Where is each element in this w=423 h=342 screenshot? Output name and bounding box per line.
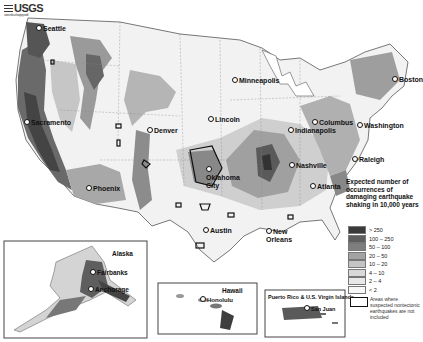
city-indianapolis: Indianapolis — [288, 127, 336, 135]
legend-label: 10 – 20 — [369, 261, 387, 267]
legend-swatch — [348, 286, 366, 294]
city-marker-icon — [288, 127, 294, 133]
city-label: Minneapolis — [239, 77, 279, 84]
city-new-orleans: New Orleans — [266, 228, 298, 244]
city-phoenix: Phoenix — [86, 185, 120, 193]
city-columbus: Columbus — [312, 119, 353, 127]
legend-row: 10 – 20 — [348, 260, 393, 269]
city-label: Indianapolis — [295, 127, 336, 134]
legend-row: > 250 — [348, 226, 393, 235]
city-marker-icon — [36, 25, 42, 31]
usgs-logo: USGS science for a changing world — [4, 2, 43, 17]
city-label: Nashville — [296, 162, 327, 169]
city-label: Lincoln — [215, 116, 240, 123]
city-raleigh: Raleigh — [352, 156, 384, 164]
city-label: Seattle — [43, 25, 66, 32]
city-marker-icon — [90, 269, 96, 275]
legend: > 250 100 – 250 50 – 100 20 – 50 10 – 20… — [348, 226, 393, 294]
legend-row: 20 – 50 — [348, 252, 393, 261]
legend-swatch — [348, 252, 366, 260]
city-seattle: Seattle — [36, 25, 66, 33]
city-lincoln: Lincoln — [208, 116, 240, 124]
legend-label: 100 – 250 — [369, 236, 393, 242]
alaska-inset-title: Alaska — [112, 250, 133, 257]
city-label: Denver — [154, 127, 178, 134]
legend-row: 50 – 100 — [348, 243, 393, 252]
city-marker-icon — [208, 116, 214, 122]
city-marker-icon — [312, 119, 318, 125]
city-label: Washington — [364, 122, 404, 129]
city-marker-icon — [352, 156, 358, 162]
legend-label: < 2 — [369, 287, 377, 293]
city-austin: Austin — [203, 227, 232, 235]
legend-label: 2 – 4 — [369, 278, 381, 284]
city-label: Austin — [210, 227, 232, 234]
legend-row: 100 – 250 — [348, 235, 393, 244]
legend-swatch — [348, 277, 366, 285]
city-marker-icon — [206, 166, 212, 172]
legend-row: 4 – 10 — [348, 269, 393, 278]
legend-title: Expected number of occurrences of damagi… — [346, 178, 421, 208]
usgs-logo-icon — [4, 5, 13, 13]
city-minneapolis: Minneapolis — [232, 77, 279, 85]
legend-row: 2 – 4 — [348, 277, 393, 286]
city-denver: Denver — [147, 127, 178, 135]
city-marker-icon — [266, 228, 272, 234]
city-label: Atlanta — [317, 183, 341, 190]
city-nashville: Nashville — [289, 162, 327, 170]
hawaii-inset-title: Hawaii — [222, 287, 243, 294]
city-label: Boston — [399, 76, 423, 83]
nontectonic-legend-note: Areas where suspected nontectonic earthq… — [370, 296, 422, 320]
legend-label: 20 – 50 — [369, 253, 387, 259]
legend-label: 50 – 100 — [369, 244, 390, 250]
legend-row: < 2 — [348, 286, 393, 295]
city-washington: Washington — [357, 122, 404, 130]
legend-swatch — [348, 226, 366, 234]
city-marker-icon — [304, 305, 310, 311]
legend-swatch — [348, 269, 366, 277]
legend-swatch — [348, 235, 366, 243]
city-label: Phoenix — [93, 185, 120, 192]
puerto-rico-inset-title: Puerto Rico & U.S. Virgin Islands — [268, 294, 354, 300]
city-anchorage: Anchorage — [88, 286, 129, 294]
city-atlanta: Atlanta — [310, 183, 341, 191]
nontectonic-legend-swatch — [350, 297, 368, 307]
city-honolulu: Honolulu — [200, 296, 233, 304]
city-oklahoma-city: Oklahoma City — [206, 166, 246, 190]
city-marker-icon — [357, 122, 363, 128]
legend-label: 4 – 10 — [369, 270, 384, 276]
city-marker-icon — [88, 286, 94, 292]
city-marker-icon — [86, 185, 92, 191]
city-marker-icon — [200, 296, 206, 302]
city-marker-icon — [310, 183, 316, 189]
city-marker-icon — [147, 127, 153, 133]
city-sacramento: Sacramento — [24, 119, 71, 127]
city-fairbanks: Fairbanks — [90, 269, 128, 277]
city-marker-icon — [232, 77, 238, 83]
city-san-juan: San Juan — [304, 305, 335, 313]
legend-label: > 250 — [369, 227, 383, 233]
city-label: Sacramento — [31, 119, 71, 126]
city-boston: Boston — [392, 76, 423, 84]
city-marker-icon — [203, 227, 209, 233]
city-label: Anchorage — [95, 286, 129, 293]
city-marker-icon — [24, 119, 30, 125]
city-marker-icon — [392, 76, 398, 82]
city-marker-icon — [289, 162, 295, 168]
city-label: Honolulu — [207, 297, 233, 303]
city-label: Raleigh — [359, 156, 384, 163]
city-label: Oklahoma City — [206, 174, 240, 189]
city-label: Fairbanks — [97, 269, 128, 276]
city-label: San Juan — [311, 306, 335, 312]
legend-swatch — [348, 243, 366, 251]
legend-swatch — [348, 260, 366, 268]
city-label: Columbus — [319, 119, 353, 126]
